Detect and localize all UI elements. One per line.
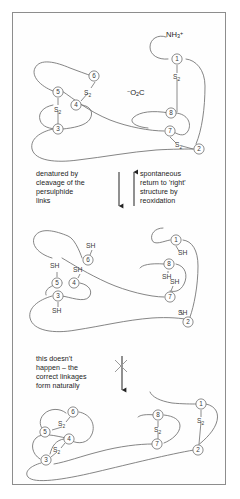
svg-text:1: 1 bbox=[175, 55, 179, 62]
svg-text:5: 5 bbox=[56, 88, 60, 95]
svg-text:7: 7 bbox=[155, 440, 159, 447]
svg-text:7: 7 bbox=[168, 293, 172, 300]
svg-text:SH: SH bbox=[162, 273, 172, 280]
cross-out-icon bbox=[115, 360, 127, 372]
svg-text:8: 8 bbox=[156, 411, 160, 418]
svg-text:3: 3 bbox=[56, 292, 60, 299]
svg-text:2: 2 bbox=[186, 318, 190, 325]
n-terminus-charge: + bbox=[180, 30, 183, 36]
svg-text:7: 7 bbox=[168, 127, 172, 134]
bond-labels-scrambled: S2 S2 S2 S2 bbox=[53, 417, 204, 455]
residue-circles-native: 1 2 3 4 5 6 7 8 bbox=[53, 54, 204, 154]
svg-text:3: 3 bbox=[44, 456, 48, 463]
annotation-denature: denatured by cleavage of the persulphide… bbox=[36, 170, 110, 206]
bond-labels-native: S2 S2 S2 S2 bbox=[54, 73, 182, 150]
panel-scrambled-chain bbox=[27, 392, 218, 481]
svg-text:5: 5 bbox=[55, 279, 59, 286]
svg-text:6: 6 bbox=[86, 256, 90, 263]
svg-text:4: 4 bbox=[74, 101, 78, 108]
svg-text:SH: SH bbox=[178, 309, 188, 316]
protein-diagram-canvas: 1 2 3 4 5 6 7 8 S2 S2 S2 S2 1 2 3 4 5 6 … bbox=[0, 0, 240, 499]
svg-text:4: 4 bbox=[72, 279, 76, 286]
svg-text:2: 2 bbox=[196, 446, 200, 453]
annotation-reoxidize: spontaneous return to 'right' structure … bbox=[140, 170, 222, 206]
svg-text:8: 8 bbox=[169, 109, 173, 116]
c-terminus-charge: − bbox=[127, 88, 130, 94]
svg-text:4: 4 bbox=[67, 435, 71, 442]
svg-text:8: 8 bbox=[167, 260, 171, 267]
svg-text:6: 6 bbox=[92, 72, 96, 79]
svg-text:5: 5 bbox=[43, 428, 47, 435]
svg-text:S2: S2 bbox=[58, 420, 65, 429]
svg-text:S2: S2 bbox=[154, 426, 161, 435]
svg-text:SH: SH bbox=[86, 242, 96, 249]
svg-text:6: 6 bbox=[71, 408, 75, 415]
svg-text:3: 3 bbox=[56, 125, 60, 132]
svg-text:SH: SH bbox=[50, 262, 60, 269]
svg-text:1: 1 bbox=[174, 236, 178, 243]
svg-text:1: 1 bbox=[199, 400, 203, 407]
svg-text:2: 2 bbox=[197, 145, 201, 152]
annotation-incorrect-linkages: this doesn't happen – the correct linkag… bbox=[36, 355, 114, 391]
arrow-incorrect bbox=[115, 356, 127, 390]
svg-text:S2: S2 bbox=[175, 141, 182, 150]
svg-text:SH: SH bbox=[52, 307, 62, 314]
svg-text:S2: S2 bbox=[54, 106, 61, 115]
svg-text:S2: S2 bbox=[173, 73, 180, 82]
c-terminus-subscript: 2 bbox=[136, 91, 139, 97]
n-terminus-label: NH3+ bbox=[166, 30, 183, 39]
c-terminus-label: −O2C bbox=[127, 88, 145, 97]
svg-text:S2: S2 bbox=[197, 417, 204, 426]
svg-text:SH: SH bbox=[73, 266, 83, 273]
residue-circles-scrambled: 1 2 3 4 5 6 7 8 bbox=[40, 399, 206, 465]
svg-text:SH: SH bbox=[178, 249, 188, 256]
svg-text:S2: S2 bbox=[53, 446, 60, 455]
